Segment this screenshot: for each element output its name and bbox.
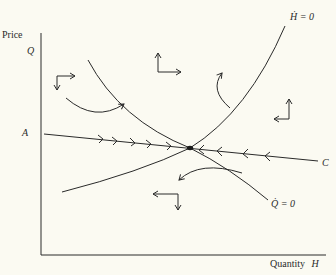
h-dot-zero-curve xyxy=(62,26,285,192)
trajectory-upper-left xyxy=(66,98,124,112)
q-dot-zero-label: Q̇ = 0 xyxy=(271,199,295,209)
trajectory-lower-right xyxy=(179,168,242,180)
x-axis-label: Quantity H xyxy=(270,259,319,269)
motion-arrows-bottom xyxy=(153,194,178,210)
q-dot-zero-curve xyxy=(88,60,268,200)
saddle-path-end-label: C xyxy=(322,158,329,168)
equilibrium-point xyxy=(187,146,193,150)
saddle-path-line xyxy=(44,134,318,161)
x-axis-label-text: Quantity xyxy=(270,258,305,269)
chevron-right-icon xyxy=(130,138,135,146)
h-dot-zero-label: Ḣ = 0 xyxy=(290,12,314,22)
motion-arrows-upper-left xyxy=(57,76,75,90)
phase-diagram xyxy=(0,0,336,275)
trajectory-upper-right xyxy=(217,73,230,108)
motion-arrows-top xyxy=(158,53,181,72)
x-axis-symbol: H xyxy=(312,258,319,269)
y-axis-label: Price xyxy=(2,30,23,40)
saddle-path-start-label: A xyxy=(22,128,28,138)
y-axis-symbol: Q xyxy=(27,46,34,56)
motion-arrows-right xyxy=(274,99,289,119)
saddle-arrows-left xyxy=(98,135,171,150)
